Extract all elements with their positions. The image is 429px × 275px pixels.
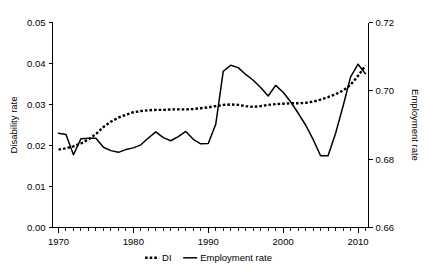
x-tick-label: 2010: [347, 236, 368, 247]
chart-legend: DIEmployment rate: [145, 252, 272, 263]
y2-tick-label: 0.66: [376, 222, 395, 233]
x-tick-label: 1980: [123, 236, 144, 247]
x-tick-label: 1970: [48, 236, 69, 247]
y2-axis-title: Employment rate: [410, 89, 421, 161]
y2-tick-label: 0.70: [376, 85, 395, 96]
legend-label-employment-rate: Employment rate: [200, 252, 272, 263]
data-series: [58, 64, 365, 156]
tick-marks: [49, 23, 373, 233]
axes: [53, 23, 369, 228]
legend-label-di: DI: [162, 252, 172, 263]
line-chart: 0.000.010.020.030.040.050.660.680.700.72…: [0, 0, 429, 275]
y-tick-label: 0.04: [27, 58, 46, 69]
series-line-di: [58, 66, 365, 150]
y2-tick-label: 0.72: [376, 17, 395, 28]
x-tick-label: 2000: [273, 236, 294, 247]
y-axis-title: Disability rate: [8, 96, 19, 153]
x-tick-label: 1990: [198, 236, 219, 247]
y-tick-label: 0.01: [27, 181, 46, 192]
y-tick-label: 0.05: [27, 17, 46, 28]
y-tick-label: 0.03: [27, 99, 46, 110]
chart-figure: 0.000.010.020.030.040.050.660.680.700.72…: [0, 0, 429, 275]
y2-tick-label: 0.68: [376, 154, 395, 165]
series-line-employment-rate: [58, 64, 365, 156]
y-tick-label: 0.00: [27, 222, 46, 233]
tick-labels: 0.000.010.020.030.040.050.660.680.700.72…: [27, 17, 394, 247]
y-tick-label: 0.02: [27, 140, 46, 151]
axis-titles: Disability rateEmployment rate: [8, 89, 422, 161]
